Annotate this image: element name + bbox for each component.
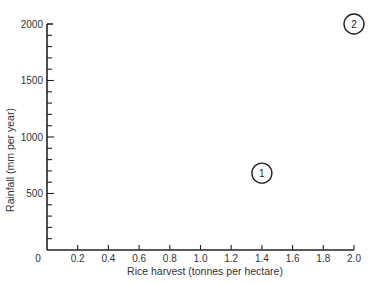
x-tick-label: 0.6 [132,253,146,264]
x-tick-label: 2.0 [347,253,361,264]
x-tick-label: 0.8 [163,253,177,264]
x-tick-label: 1.2 [224,253,238,264]
x-axis-ticks: 0.20.40.60.81.01.21.41.61.82.0 [71,245,362,264]
x-tick-label: 0.2 [71,253,85,264]
y-tick-label: 2000 [21,19,44,30]
point-label: 2 [351,19,357,30]
origin-label: 0 [35,253,41,264]
point-label: 1 [259,168,265,179]
x-tick-label: 1.8 [316,253,330,264]
y-tick-label: 1500 [21,75,44,86]
x-axis-title: Rice harvest (tonnes per hectare) [127,265,283,277]
data-point-1: 1 [252,163,272,183]
x-tick-label: 0.4 [101,253,115,264]
data-point-2: 2 [344,14,364,34]
axes [47,24,354,250]
y-tick-label: 1000 [21,132,44,143]
x-tick-label: 1.6 [286,253,300,264]
y-axis-title: Rainfall (mm per year) [4,108,16,212]
x-tick-label: 1.0 [194,253,208,264]
y-tick-label: 500 [26,188,43,199]
y-axis-ticks: 500100015002000 [21,19,54,239]
scatter-chart: 0.20.40.60.81.01.21.41.61.82.0 500100015… [0,0,376,285]
data-points: 12 [252,14,364,183]
x-tick-label: 1.4 [255,253,269,264]
